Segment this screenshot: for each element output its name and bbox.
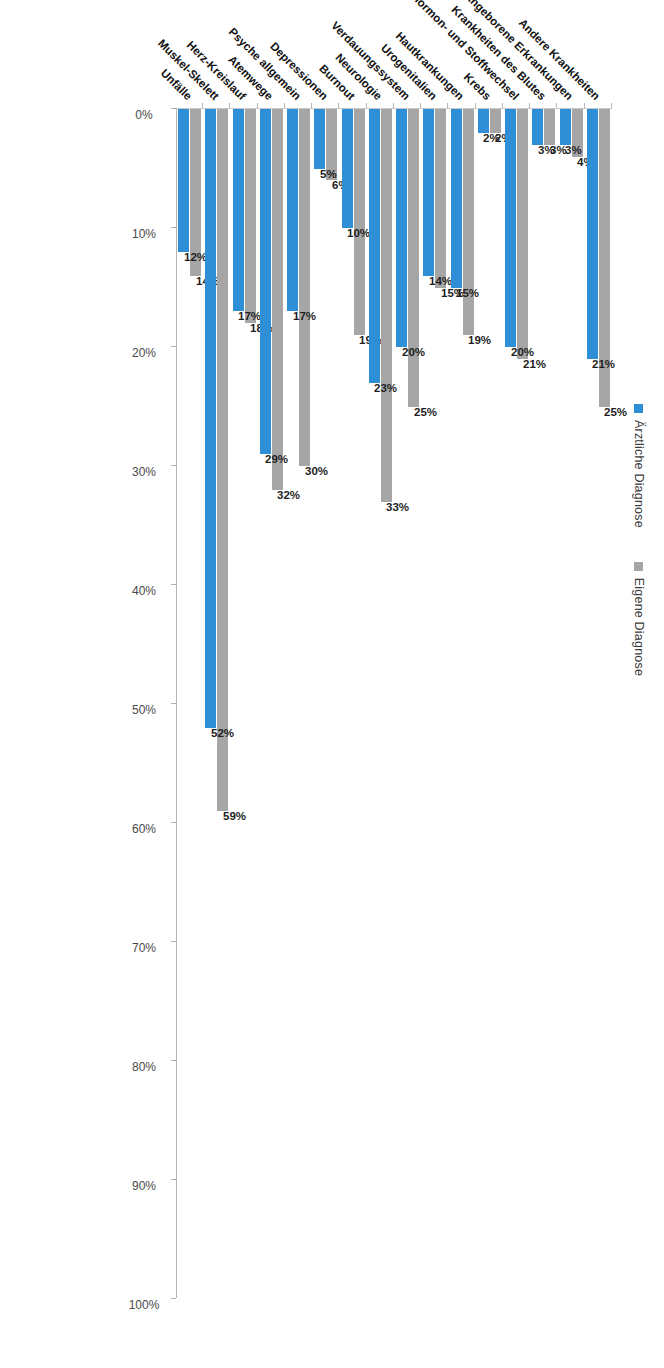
bar-group: 2%2% bbox=[476, 109, 503, 1299]
bar-eigen[interactable] bbox=[463, 109, 474, 335]
category-axis-tick bbox=[448, 103, 449, 108]
bar-arzt[interactable] bbox=[205, 109, 216, 728]
bar-arzt[interactable] bbox=[314, 109, 325, 169]
bar-arzt[interactable] bbox=[478, 109, 489, 133]
bar-value-label: 3% bbox=[565, 144, 582, 156]
bar-group: 33%23% bbox=[367, 109, 394, 1299]
category-axis-tick bbox=[502, 103, 503, 108]
legend-label-eigen: Eigene Diagnose bbox=[632, 578, 646, 676]
bar-arzt[interactable] bbox=[369, 109, 380, 383]
value-axis-label: 70% bbox=[132, 941, 156, 955]
bar-eigen[interactable] bbox=[299, 109, 310, 466]
scanned-page: Ärztliche Diagnose Eigene Diagnose 0%10%… bbox=[0, 0, 664, 1368]
bar-arzt[interactable] bbox=[560, 109, 571, 145]
bar-arzt[interactable] bbox=[505, 109, 516, 347]
bar-value-label: 2% bbox=[483, 132, 500, 144]
bar-group: 18%17% bbox=[231, 109, 258, 1299]
category-axis-tick bbox=[284, 103, 285, 108]
bar-group: 6%5% bbox=[312, 109, 339, 1299]
category-axis-tick bbox=[584, 103, 585, 108]
bar-eigen[interactable] bbox=[381, 109, 392, 502]
bar-arzt[interactable] bbox=[287, 109, 298, 311]
category-axis-tick bbox=[257, 103, 258, 108]
bar-group: 14%12% bbox=[176, 109, 203, 1299]
bar-group: 25%20% bbox=[394, 109, 421, 1299]
category-axis-tick bbox=[611, 103, 612, 108]
category-axis-tick bbox=[420, 103, 421, 108]
bar-arzt[interactable] bbox=[396, 109, 407, 347]
bar-group: 4%3% bbox=[558, 109, 585, 1299]
chart-legend: Ärztliche Diagnose Eigene Diagnose bbox=[632, 404, 646, 676]
value-axis-label: 90% bbox=[132, 1179, 156, 1193]
bar-group: 19%10% bbox=[340, 109, 367, 1299]
bar-arzt[interactable] bbox=[342, 109, 353, 228]
legend-entry-arzt[interactable]: Ärztliche Diagnose bbox=[632, 404, 646, 528]
bar-value-label: 3% bbox=[538, 144, 555, 156]
value-axis-label: 10% bbox=[132, 227, 156, 241]
bar-eigen[interactable] bbox=[490, 109, 501, 133]
legend-swatch-arzt bbox=[635, 404, 644, 413]
bar-group: 21%20% bbox=[503, 109, 530, 1299]
bar-group: 30%17% bbox=[285, 109, 312, 1299]
bar-eigen[interactable] bbox=[245, 109, 256, 323]
value-axis-label: 60% bbox=[132, 822, 156, 836]
value-axis-label: 40% bbox=[132, 584, 156, 598]
bar-value-label: 5% bbox=[320, 168, 337, 180]
bar-arzt[interactable] bbox=[587, 109, 598, 359]
category-axis-tick bbox=[529, 103, 530, 108]
bar-group: 32%29% bbox=[258, 109, 285, 1299]
bar-group: 25%21% bbox=[585, 109, 612, 1299]
bar-value-label: 21% bbox=[592, 358, 615, 370]
value-axis-label: 50% bbox=[132, 703, 156, 717]
bar-group: 3%3% bbox=[530, 109, 557, 1299]
legend-swatch-eigen bbox=[635, 562, 644, 571]
bar-arzt[interactable] bbox=[532, 109, 543, 145]
bar-arzt[interactable] bbox=[233, 109, 244, 311]
legend-label-arzt: Ärztliche Diagnose bbox=[632, 420, 646, 528]
plot-area: 0%10%20%30%40%50%60%70%80%90%100% 14%12%… bbox=[176, 108, 612, 1298]
value-axis-label: 80% bbox=[132, 1060, 156, 1074]
bar-value-label: 25% bbox=[604, 406, 627, 418]
category-axis-tick bbox=[557, 103, 558, 108]
bar-arzt[interactable] bbox=[260, 109, 271, 454]
category-axis-tick bbox=[366, 103, 367, 108]
category-axis-tick bbox=[339, 103, 340, 108]
bar-group: 59%52% bbox=[203, 109, 230, 1299]
chart-canvas: Ärztliche Diagnose Eigene Diagnose 0%10%… bbox=[0, 0, 664, 1368]
bar-arzt[interactable] bbox=[178, 109, 189, 252]
bar-eigen[interactable] bbox=[217, 109, 228, 811]
bar-eigen[interactable] bbox=[408, 109, 419, 407]
value-axis-label: 0% bbox=[135, 108, 152, 122]
bar-group: 15%14% bbox=[421, 109, 448, 1299]
bar-eigen[interactable] bbox=[354, 109, 365, 335]
bar-arzt[interactable] bbox=[423, 109, 434, 276]
value-axis-label: 30% bbox=[132, 465, 156, 479]
value-axis-label: 20% bbox=[132, 346, 156, 360]
value-axis-label: 100% bbox=[129, 1298, 160, 1312]
category-axis-tick bbox=[230, 103, 231, 108]
legend-entry-eigen[interactable]: Eigene Diagnose bbox=[632, 562, 646, 676]
category-axis-tick bbox=[475, 103, 476, 108]
bar-group: 19%15% bbox=[449, 109, 476, 1299]
bar-eigen[interactable] bbox=[435, 109, 446, 288]
category-axis-tick bbox=[202, 103, 203, 108]
category-axis-tick bbox=[393, 103, 394, 108]
bar-arzt[interactable] bbox=[451, 109, 462, 288]
bar-eigen[interactable] bbox=[544, 109, 555, 145]
category-axis-tick bbox=[311, 103, 312, 108]
bar-eigen[interactable] bbox=[272, 109, 283, 490]
bar-eigen[interactable] bbox=[517, 109, 528, 359]
